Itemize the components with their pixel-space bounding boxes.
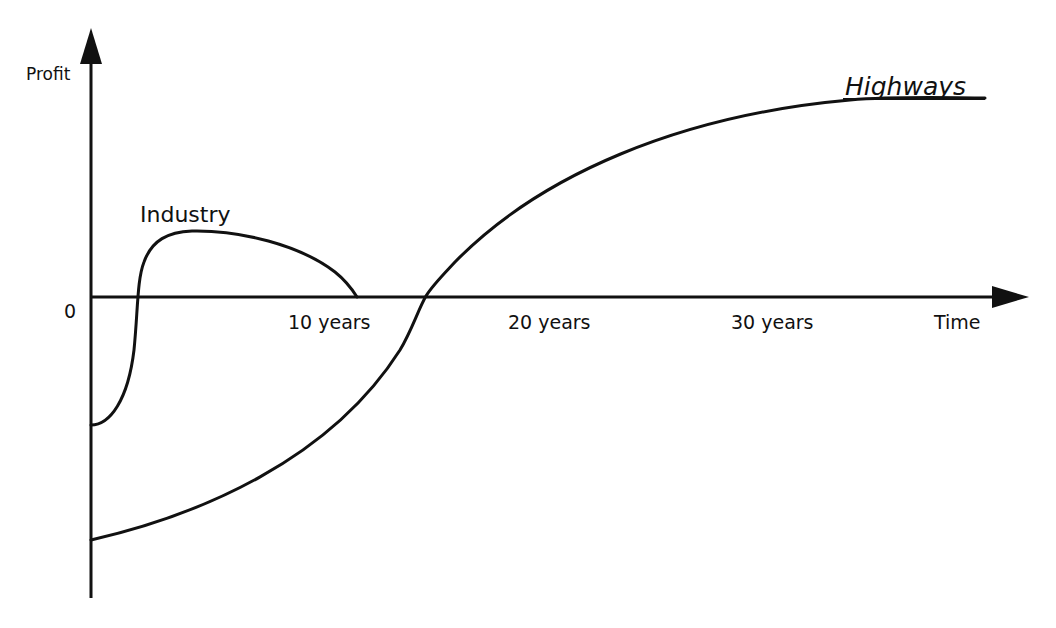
x-axis-label: Time (933, 311, 981, 333)
highways-label: Highways (845, 72, 966, 101)
x-tick-10-years: 10 years (288, 311, 371, 333)
x-axis-arrow-icon (992, 286, 1029, 308)
industry-label: Industry (140, 202, 231, 227)
x-tick-30-years: 30 years (731, 311, 814, 333)
origin-label: 0 (64, 300, 76, 322)
y-axis-label: Profit (26, 64, 71, 84)
profit-over-time-diagram: Profit 0 10 years 20 years 30 years Time… (0, 0, 1056, 628)
y-axis-arrow-icon (80, 28, 102, 64)
x-tick-20-years: 20 years (508, 311, 591, 333)
